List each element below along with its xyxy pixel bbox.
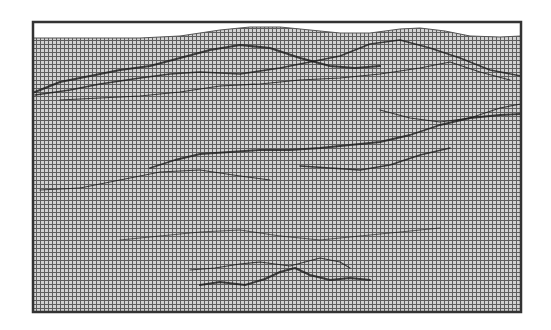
mesh-grid [33,22,521,312]
mesh-area [33,22,521,312]
mesh-figure [0,0,551,330]
